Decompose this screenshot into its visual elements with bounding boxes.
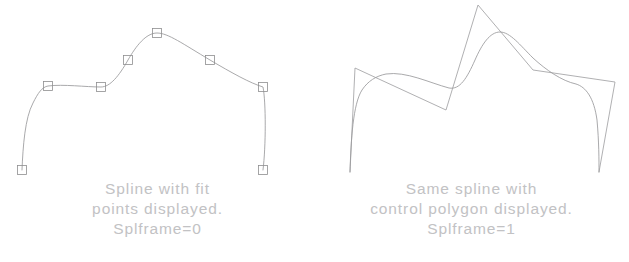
caption-line-1: Spline with fit bbox=[0, 179, 315, 199]
caption-line-1: Same spline with bbox=[314, 179, 629, 199]
spline-curve bbox=[350, 32, 599, 172]
spline-comparison-figure: Spline with fit points displayed. Splfra… bbox=[0, 0, 629, 262]
panel-spline-control-polygon: Same spline with control polygon display… bbox=[314, 0, 629, 262]
spline-curve bbox=[22, 33, 265, 170]
caption-spline-control-polygon: Same spline with control polygon display… bbox=[314, 179, 629, 239]
caption-line-3: Splframe=0 bbox=[0, 219, 315, 239]
control-polygon bbox=[350, 5, 615, 172]
caption-line-3: Splframe=1 bbox=[314, 219, 629, 239]
panel-spline-fit-points: Spline with fit points displayed. Splfra… bbox=[0, 0, 315, 262]
spline-control-polygon-drawing bbox=[314, 0, 629, 180]
caption-line-2: points displayed. bbox=[0, 199, 315, 219]
spline-fit-points-drawing bbox=[0, 0, 315, 180]
caption-spline-fit-points: Spline with fit points displayed. Splfra… bbox=[0, 179, 315, 239]
caption-line-2: control polygon displayed. bbox=[314, 199, 629, 219]
